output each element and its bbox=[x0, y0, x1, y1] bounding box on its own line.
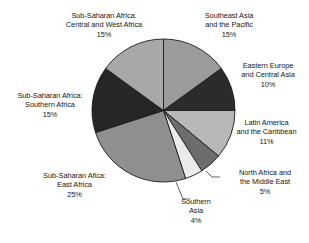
slice-label-sub-saharan-east-africa: Sub-Saharan Afica: East Africa 25% bbox=[27, 171, 122, 199]
label-value: 15% bbox=[176, 30, 282, 39]
label-line-1: Latin America bbox=[225, 118, 308, 127]
slice-label-latin-america-caribbean: Latin America and the Caribbean 11% bbox=[225, 118, 308, 146]
label-line-1: North Africa and bbox=[222, 168, 308, 177]
label-line-2: Central and West Africa bbox=[34, 20, 174, 29]
slice-label-southern-asia: Southern Asia 4% bbox=[168, 197, 224, 225]
label-line-2: and the Pacific bbox=[176, 20, 282, 29]
label-line-2: and Central Asia bbox=[228, 70, 308, 79]
label-value: 5% bbox=[222, 187, 308, 196]
label-line-2: Southern Africa bbox=[2, 100, 98, 109]
label-line-2: Asia bbox=[168, 206, 224, 215]
label-value: 11% bbox=[225, 137, 308, 146]
label-line-2: and the Caribbean bbox=[225, 127, 308, 136]
label-value: 25% bbox=[27, 190, 122, 199]
leader-line-north-africa-middle-east bbox=[206, 171, 220, 177]
label-value: 10% bbox=[228, 80, 308, 89]
label-value: 4% bbox=[168, 216, 224, 225]
label-line-1: Sub-Saharan Africa: bbox=[34, 11, 174, 20]
label-line-1: Southeast Asia bbox=[176, 11, 282, 20]
slice-label-eastern-europe-central-asia: Eastern Europe and Central Asia 10% bbox=[228, 61, 308, 89]
label-line-1: Sub-Saharan Afica: bbox=[27, 171, 122, 180]
label-value: 15% bbox=[2, 110, 98, 119]
slice-label-southeast-asia-pacific: Southeast Asia and the Pacific 15% bbox=[176, 11, 282, 39]
slice-label-north-africa-middle-east: North Africa and the Middle East 5% bbox=[222, 168, 308, 196]
label-line-1: Southern bbox=[168, 197, 224, 206]
label-line-1: Sub-Saharan Africa: bbox=[2, 91, 98, 100]
slice-label-sub-saharan-southern-africa: Sub-Saharan Africa: Southern Africa 15% bbox=[2, 91, 98, 119]
label-line-1: Eastern Europe bbox=[228, 61, 308, 70]
label-line-2: the Middle East bbox=[222, 177, 308, 186]
pie-chart-figure: Sub-Saharan Africa: Central and West Afr… bbox=[0, 0, 309, 243]
pie-slice-group bbox=[92, 39, 235, 182]
label-value: 15% bbox=[34, 30, 174, 39]
slice-label-sub-saharan-central-west-africa: Sub-Saharan Africa: Central and West Afr… bbox=[34, 11, 174, 39]
label-line-2: East Africa bbox=[27, 180, 122, 189]
